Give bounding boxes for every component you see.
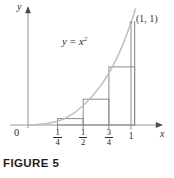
fraction-denominator: 2 — [79, 138, 87, 147]
fraction-denominator: 4 — [105, 138, 113, 147]
fraction-three-fourths: 34 — [105, 128, 113, 146]
figure-caption: FIGURE 5 — [3, 157, 59, 169]
figure-container: y x 0 y = x2 (1, 1) 14 12 34 1 FIGURE 5 — [0, 0, 174, 178]
y-axis-label: y — [17, 2, 21, 12]
y-axis-arrow-icon — [25, 6, 31, 13]
riemann-bar-2 — [83, 99, 109, 125]
curve-equation-exponent: 2 — [84, 35, 88, 43]
plot-area: y x 0 y = x2 (1, 1) 14 12 34 1 — [0, 0, 174, 150]
fraction-denominator: 4 — [53, 138, 61, 147]
tick-label-half: 12 — [72, 128, 94, 146]
fraction-one-half: 12 — [79, 128, 87, 146]
whole-number-one: 1 — [129, 128, 134, 141]
tick-label-quarter: 14 — [47, 128, 69, 146]
point-coordinate-label: (1, 1) — [136, 15, 158, 25]
tick-label-three-quarter: 34 — [98, 128, 120, 146]
fraction-one-fourth: 14 — [53, 128, 61, 146]
x-axis-label: x — [160, 129, 164, 139]
curve-equation-base: y = x — [62, 36, 84, 47]
point-marker-1-1 — [130, 21, 133, 24]
curve-equation-label: y = x2 — [62, 37, 87, 48]
origin-label: 0 — [14, 128, 19, 139]
tick-label-one: 1 — [120, 128, 142, 141]
